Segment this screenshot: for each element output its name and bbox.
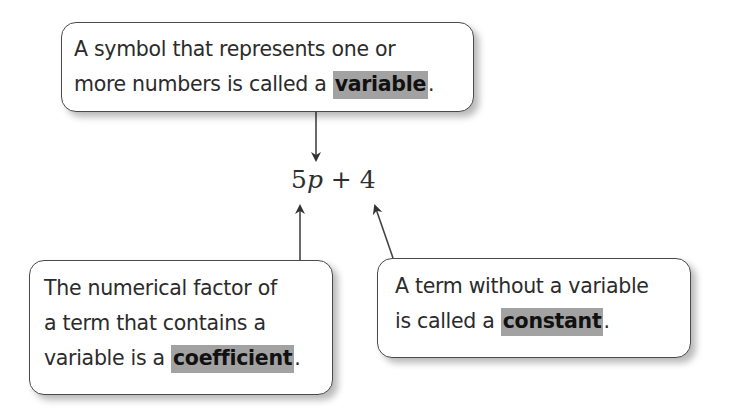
callout-text: more numbers is called a [74,72,333,96]
period: . [294,346,300,370]
callout-line: a term that contains a [44,306,332,341]
callout-text: variable is a [44,346,171,370]
callout-text: is called a [395,309,501,333]
callout-variable: A symbol that represents one or more num… [61,22,474,112]
callout-line: more numbers is called a variable. [74,67,473,102]
highlighted-term-variable: variable [333,71,428,99]
callout-line: A symbol that represents one or [74,32,473,67]
callout-constant: A term without a variable is called a co… [377,258,691,358]
period: . [428,72,434,96]
highlighted-term-constant: constant [501,308,604,336]
algebraic-expression: 5p + 4 [291,165,376,194]
callout-line: The numerical factor of [44,271,332,306]
callout-line: variable is a coefficient. [44,341,332,376]
arrow-to-constant [375,206,393,258]
expression-operator: + [323,165,360,194]
callout-coefficient: The numerical factor of a term that cont… [29,260,333,395]
expression-variable: p [307,165,323,194]
expression-constant: 4 [360,165,376,194]
expression-coefficient: 5 [291,165,307,194]
period: . [603,309,609,333]
highlighted-term-coefficient: coefficient [171,345,294,373]
callout-line: A term without a variable [395,269,690,304]
callout-line: is called a constant. [395,304,690,339]
